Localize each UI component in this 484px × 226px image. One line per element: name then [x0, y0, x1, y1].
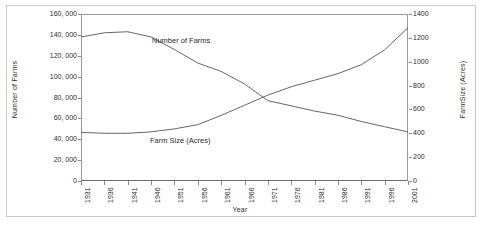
x-axis-tick-label: 1951: [177, 187, 184, 203]
y-axis-left-title: Number of Farms: [11, 40, 18, 140]
x-axis-tick-mark: [174, 181, 175, 185]
x-axis-tick-mark: [291, 181, 292, 185]
x-axis-tick-label: 1981: [318, 187, 325, 203]
x-axis-tick-label: 1946: [154, 187, 161, 203]
x-axis-tick-mark: [315, 181, 316, 185]
series-annotation-number-of-farms: Number of Farms: [152, 36, 210, 45]
x-axis-tick-mark: [221, 181, 222, 185]
series-annotation-farm-size: Farm Size (Acres): [150, 136, 210, 145]
chart-screenshot: 020, 00040, 00060, 00080, 000100, 000120…: [0, 0, 484, 226]
x-axis-tick-label: 1986: [341, 187, 348, 203]
x-axis-tick-label: 1936: [107, 187, 114, 203]
x-axis-tick-mark: [104, 181, 105, 185]
x-axis-tick-label: 1941: [131, 187, 138, 203]
x-axis-tick-label: 1956: [201, 187, 208, 203]
x-axis-tick-label: 1931: [84, 187, 91, 203]
x-axis-tick-mark: [245, 181, 246, 185]
plot-curves: [81, 14, 408, 181]
x-axis-tick-label: 1961: [224, 187, 231, 203]
series-line-farm-size: [81, 28, 408, 134]
y-axis-right-title: FarmSize (Acres): [459, 40, 466, 140]
x-axis-tick-mark: [361, 181, 362, 185]
x-axis-tick-label: 1971: [271, 187, 278, 203]
x-axis-tick-label: 1976: [294, 187, 301, 203]
x-axis-tick-mark: [81, 181, 82, 185]
x-axis-tick-mark: [338, 181, 339, 185]
series-line-number-of-farms: [81, 32, 408, 132]
x-axis-tick-label: 1991: [364, 187, 371, 203]
x-axis-tick-label: 1966: [248, 187, 255, 203]
x-axis-tick-mark: [408, 181, 409, 185]
x-axis-title: Year: [200, 206, 280, 213]
x-axis-tick-mark: [151, 181, 152, 185]
x-axis-tick-mark: [198, 181, 199, 185]
x-axis-tick-mark: [128, 181, 129, 185]
x-axis-tick-label: 2001: [411, 187, 418, 203]
x-axis-tick-mark: [385, 181, 386, 185]
x-axis-tick-label: 1996: [388, 187, 395, 203]
x-axis-tick-mark: [268, 181, 269, 185]
